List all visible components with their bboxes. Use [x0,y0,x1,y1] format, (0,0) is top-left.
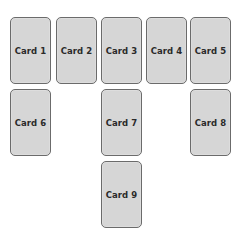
card-label: Card 2 [61,46,93,56]
card-7[interactable]: Card 7 [101,89,142,156]
card-label: Card 4 [151,46,183,56]
card-6[interactable]: Card 6 [10,89,51,156]
card-3[interactable]: Card 3 [101,17,142,84]
card-2[interactable]: Card 2 [56,17,97,84]
card-label: Card 3 [106,46,138,56]
card-label: Card 5 [195,46,227,56]
card-1[interactable]: Card 1 [10,17,51,84]
card-label: Card 6 [15,118,47,128]
card-label: Card 9 [106,190,138,200]
card-4[interactable]: Card 4 [146,17,187,84]
card-label: Card 1 [15,46,47,56]
card-9[interactable]: Card 9 [101,161,142,228]
card-5[interactable]: Card 5 [190,17,231,84]
card-label: Card 8 [195,118,227,128]
card-8[interactable]: Card 8 [190,89,231,156]
card-label: Card 7 [106,118,138,128]
